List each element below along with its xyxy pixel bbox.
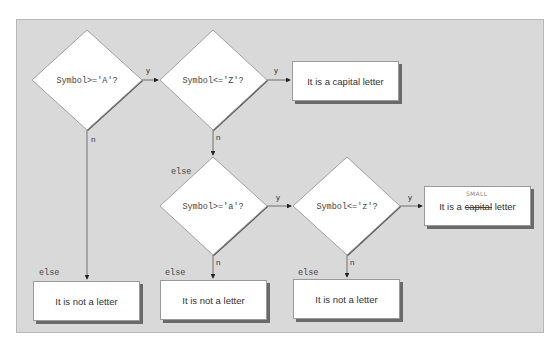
edge-label-no: n — [216, 133, 220, 142]
else-label: else — [39, 268, 59, 278]
else-label: else — [298, 268, 318, 278]
outcome-label: It is a capital letter — [439, 201, 516, 212]
decision-label-1: Symbol>='A'? — [56, 76, 117, 86]
decision-label-4: Symbol<='z'? — [316, 202, 377, 212]
edge-label-yes: y — [274, 66, 278, 75]
outcome-label: It is not a letter — [55, 296, 117, 307]
outcome-not-letter-1: It is not a letter — [33, 281, 140, 321]
else-label: else — [165, 268, 185, 278]
outcome-capital-letter: It is a capital letter — [292, 61, 399, 101]
outcome-label: It is a capital letter — [307, 76, 384, 87]
edge-label-yes: y — [146, 66, 150, 75]
outcome-not-letter-3: It is not a letter — [293, 279, 400, 319]
handwritten-note: SMALL — [466, 190, 487, 197]
edge-label-no: n — [216, 258, 220, 267]
edge-label-no: n — [350, 258, 354, 267]
else-label: else — [171, 167, 191, 177]
struck-word: capital — [465, 201, 492, 212]
outcome-not-letter-2: It is not a letter — [160, 280, 267, 320]
edge-label-no: n — [91, 135, 95, 144]
decision-label-3: Symbol>='a'? — [182, 202, 243, 212]
outcome-label-suffix: letter — [492, 201, 516, 212]
decision-label-2: Symbol<='Z'? — [182, 76, 243, 86]
edge-label-yes: y — [408, 193, 412, 202]
outcome-label: It is not a letter — [182, 295, 244, 306]
edge-label-yes: y — [276, 193, 280, 202]
outcome-label-prefix: It is a — [439, 201, 464, 212]
outcome-label: It is not a letter — [315, 294, 377, 305]
